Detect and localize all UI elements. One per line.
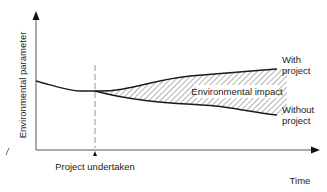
project-start-arrow-icon: [93, 151, 97, 156]
environmental-impact-diagram: Environmental parameter Time Project und…: [0, 0, 327, 192]
with-project-label-line2: project: [282, 65, 311, 76]
x-axis-label: Time: [290, 175, 311, 186]
without-project-label-line2: project: [282, 115, 311, 126]
y-axis-arrow-icon: [33, 11, 40, 20]
baseline-curve: [36, 81, 95, 91]
project-undertaken-label: Project undertaken: [55, 161, 135, 172]
stray-mark: [6, 148, 9, 155]
without-project-label-line1: Without: [282, 104, 315, 115]
x-axis-arrow-icon: [311, 147, 320, 154]
with-project-label-line1: With: [282, 54, 301, 65]
y-axis-label: Environmental parameter: [17, 32, 28, 139]
environmental-impact-label: Environmental impact: [191, 86, 283, 97]
